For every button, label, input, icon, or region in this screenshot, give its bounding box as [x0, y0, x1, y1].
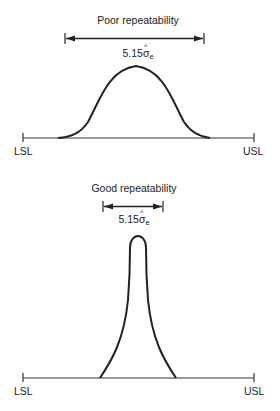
sigma-hat-symbol: σ: [143, 47, 149, 59]
poor-distribution-curve: [58, 66, 210, 138]
sigma-hat-symbol: σ: [139, 213, 145, 225]
sigma-subscript: e: [145, 218, 149, 227]
poor-usl-label: USL: [243, 145, 263, 157]
good-usl-label: USL: [244, 385, 264, 397]
good-distribution-curve: [100, 236, 176, 378]
sigma-subscript: e: [149, 52, 153, 61]
good-spec-axis: [23, 373, 254, 382]
width-label-prefix: 5.15: [118, 213, 138, 225]
poor-repeatability-title: Poor repeatability: [97, 14, 179, 26]
width-label-prefix: 5.15: [122, 47, 142, 59]
poor-lsl-label: LSL: [14, 145, 33, 157]
poor-width-arrow: [65, 33, 204, 44]
poor-spec-axis: [23, 133, 254, 142]
poor-width-label: 5.15σe: [122, 47, 153, 63]
good-repeatability-title: Good repeatability: [91, 182, 176, 194]
good-lsl-label: LSL: [14, 385, 33, 397]
good-width-label: 5.15σe: [118, 213, 149, 229]
good-width-arrow: [103, 201, 163, 212]
